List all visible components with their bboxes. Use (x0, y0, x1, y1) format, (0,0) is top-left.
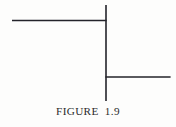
figure-container: FIGURE 1.9 (0, 0, 176, 127)
figure-caption: FIGURE 1.9 (0, 104, 176, 118)
